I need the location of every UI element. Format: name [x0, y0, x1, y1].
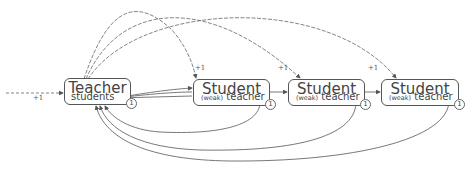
student1-weak-label: (weak) [201, 94, 223, 102]
back-edge-student2-teacher [100, 100, 356, 150]
student3-badge: 1 [454, 99, 465, 110]
teacher-badge: 1 [126, 98, 137, 109]
arc-teacher-student2 [86, 18, 300, 79]
student2-edge-label: +1 [278, 64, 288, 72]
student2-badge: 1 [360, 99, 371, 110]
student1-node[interactable]: Student (weak) teacher [193, 79, 270, 106]
student1-subtitle: teacher [226, 91, 264, 102]
student3-edge-label: +1 [368, 64, 378, 72]
student2-subtitle: teacher [321, 91, 359, 102]
teacher-subtitle: students [71, 92, 114, 102]
student1-badge: 1 [265, 99, 276, 110]
incoming-label: +1 [33, 94, 43, 102]
student2-node[interactable]: Student (weak) teacher [288, 79, 365, 106]
student3-node[interactable]: Student (weak) teacher [381, 79, 459, 106]
arc-teacher-student3 [88, 18, 396, 79]
teacher-node[interactable]: Teacher students [64, 78, 131, 105]
arc-teacher-student1 [84, 11, 196, 79]
student2-weak-label: (weak) [296, 94, 318, 102]
student3-subtitle: teacher [414, 91, 452, 102]
student1-edge-label: +1 [195, 64, 205, 72]
student3-weak-label: (weak) [389, 94, 411, 102]
